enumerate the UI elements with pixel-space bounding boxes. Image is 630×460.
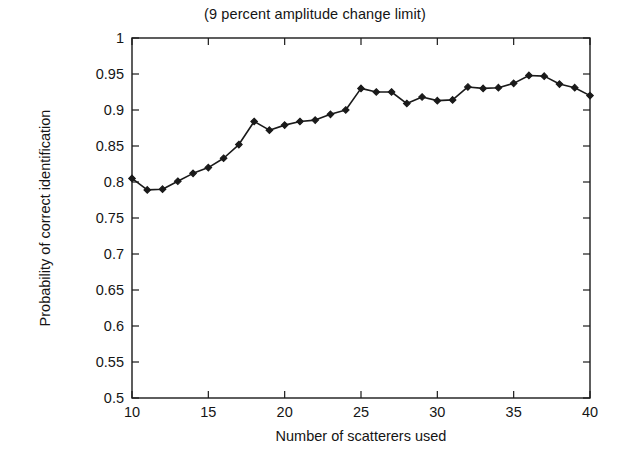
data-point [159,186,166,193]
x-tick-label: 20 [277,404,293,420]
data-point [510,80,517,87]
x-tick-label: 40 [582,404,598,420]
data-point [373,89,380,96]
y-tick-label: 0.65 [96,282,124,298]
y-tick-label: 0.95 [96,66,124,82]
x-tick-label: 25 [353,404,369,420]
data-point [495,84,502,91]
y-axis-label: Probability of correct identification [37,53,53,383]
data-point [175,178,182,185]
x-tick-label: 15 [200,404,216,420]
data-point [190,170,197,177]
y-tick-label: 0.8 [104,174,124,190]
y-tick-label: 0.9 [104,102,124,118]
x-tick-label: 35 [506,404,522,420]
data-point [312,117,319,124]
data-point [556,81,563,88]
chart-figure: (9 percent amplitude change limit) Proba… [0,0,630,460]
y-tick-label: 0.75 [96,210,124,226]
data-point [266,127,273,134]
data-point [526,72,533,79]
data-point [419,94,426,101]
data-point [571,84,578,91]
data-series-line [132,75,590,189]
y-tick-label: 0.5 [104,390,124,406]
x-axis-label: Number of scatterers used [132,428,590,444]
data-point [587,92,594,99]
y-tick-label: 0.6 [104,318,124,334]
y-tick-label: 1 [116,30,124,46]
y-tick-label: 0.7 [104,246,124,262]
data-point [327,111,334,118]
data-point [297,118,304,125]
x-tick-label: 10 [124,404,140,420]
y-tick-label: 0.55 [96,354,124,370]
data-point [281,122,288,129]
x-tick-label: 30 [429,404,445,420]
y-axis-tick-labels: 0.50.550.60.650.70.750.80.850.90.951 [52,0,124,460]
data-point [434,97,441,104]
data-point [541,73,548,80]
y-tick-label: 0.85 [96,138,124,154]
data-point [480,85,487,92]
data-series-markers [129,72,594,193]
